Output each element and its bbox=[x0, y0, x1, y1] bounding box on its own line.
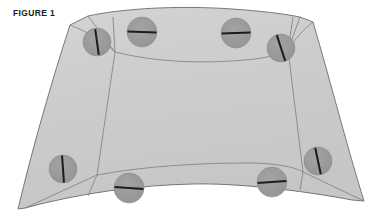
grommet-top-left bbox=[127, 17, 157, 47]
figure-canvas: FIGURE 1 bbox=[0, 0, 383, 222]
grommet-top-right-slot bbox=[222, 32, 251, 33]
figure-label: FIGURE 1 bbox=[13, 8, 55, 18]
grommet-right-lower bbox=[304, 147, 332, 175]
grommet-top-left-slot bbox=[128, 31, 157, 32]
grommet-left-lower bbox=[49, 155, 77, 183]
grommet-bottom-left bbox=[114, 173, 144, 203]
grommet-top-left-corner bbox=[83, 28, 111, 56]
grommet-bottom-right bbox=[257, 167, 287, 197]
grommet-top-right bbox=[221, 18, 251, 48]
tarp-illustration bbox=[0, 0, 383, 222]
tarp-inner-panel bbox=[97, 50, 303, 175]
grommet-right-upper bbox=[267, 34, 295, 62]
